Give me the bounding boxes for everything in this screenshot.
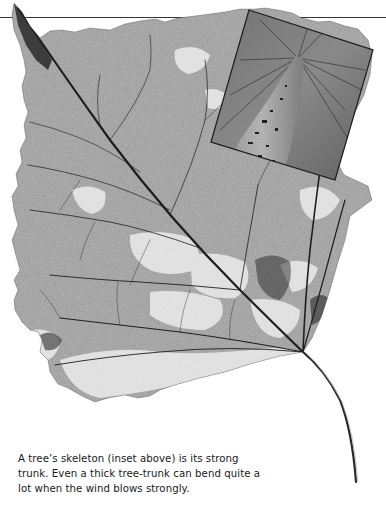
figure-caption: A tree’s skeleton (inset above) is its s… <box>18 451 258 496</box>
leaf-stem <box>303 352 356 482</box>
caption-line-3: lot when the wind blows strongly. <box>18 481 258 496</box>
caption-line-1: A tree’s skeleton (inset above) is its s… <box>18 451 258 466</box>
caption-line-2: trunk. Even a thick tree-trunk can bend … <box>18 466 258 481</box>
skeleton-leaf-illustration <box>0 0 386 507</box>
